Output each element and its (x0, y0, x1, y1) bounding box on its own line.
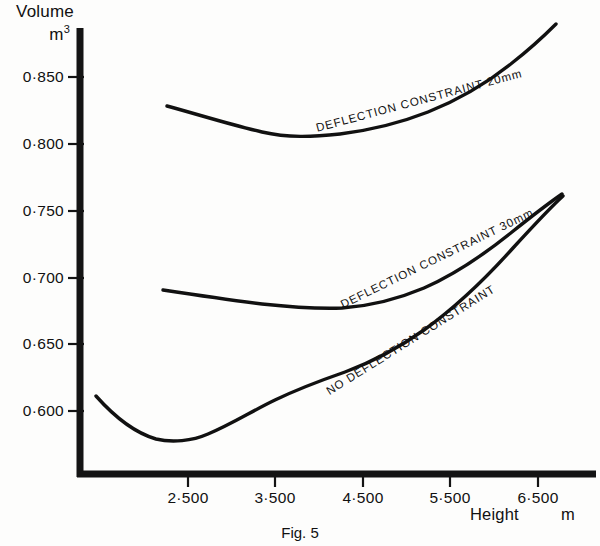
x-axis-title: Height (470, 505, 519, 524)
x-tick-label-3500: 3·500 (243, 489, 307, 507)
y-tick-label-0750: 0·750 (6, 202, 64, 220)
figure-container: Volume m3 0·850 0·800 0·750 0·700 0·650 … (0, 0, 600, 546)
x-axis-unit: m (561, 505, 575, 524)
y-tick-label-0800: 0·800 (6, 135, 64, 153)
y-tick-label-0850: 0·850 (6, 68, 64, 86)
x-tick-label-2500: 2·500 (156, 489, 220, 507)
figure-caption: Fig. 5 (0, 524, 600, 541)
x-tick-label-4500: 4·500 (331, 489, 395, 507)
y-axis-unit: m3 (8, 23, 74, 45)
y-tick-label-0600: 0·600 (6, 402, 64, 420)
y-axis-title-name: Volume (16, 2, 74, 21)
y-tick-label-0700: 0·700 (6, 269, 64, 287)
y-axis-title: Volume m3 (8, 2, 74, 45)
y-tick-label-0650: 0·650 (6, 335, 64, 353)
